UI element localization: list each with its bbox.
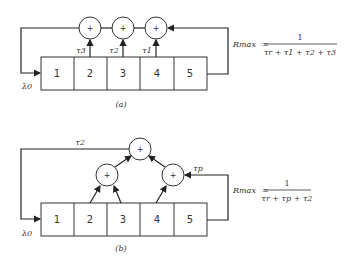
- plus-icon: +: [170, 171, 177, 180]
- tap-label-tau3: τ3: [76, 46, 86, 55]
- plus-icon: +: [104, 171, 111, 180]
- formula-numerator-b: 1: [284, 179, 289, 188]
- cell-3: 3: [120, 214, 126, 225]
- formula-numerator-a: 1: [297, 33, 302, 42]
- plus-icon: +: [87, 24, 94, 33]
- diagram-canvas: 1 2 3 4 5 + + + τ3 τ2 τ1 λ0 (: [0, 0, 349, 260]
- tap-label-tau1: τ1: [142, 46, 152, 55]
- caption-b: (b): [115, 244, 126, 253]
- plus-icon: +: [137, 145, 144, 154]
- cell-1: 1: [54, 68, 60, 79]
- cell-4: 4: [154, 214, 160, 225]
- tap-label-taup: τp: [193, 164, 203, 173]
- formula-denominator-a: τr + τ1 + τ2 + τ3: [264, 48, 336, 57]
- input-label-lambda0: λ0: [21, 82, 32, 91]
- plus-icon: +: [153, 24, 160, 33]
- cell-3: 3: [120, 68, 126, 79]
- cell-2: 2: [87, 68, 93, 79]
- caption-a: (a): [115, 100, 126, 109]
- input-label-lambda0: λ0: [21, 229, 32, 238]
- diagram-b: 1 2 3 4 5 + + + τ2 τp λ0 (b) Rmax = 1 τr…: [21, 138, 312, 253]
- cell-4: 4: [154, 68, 160, 79]
- feedback-label-tau2: τ2: [75, 138, 85, 147]
- cell-5: 5: [187, 68, 193, 79]
- cell-2: 2: [87, 214, 93, 225]
- formula-lhs-b: Rmax: [232, 186, 256, 195]
- cell-5: 5: [187, 214, 193, 225]
- formula-lhs-a: Rmax: [232, 40, 256, 49]
- tap-label-tau2: τ2: [109, 46, 119, 55]
- plus-icon: +: [120, 24, 127, 33]
- cell-1: 1: [54, 214, 60, 225]
- diagram-a: 1 2 3 4 5 + + + τ3 τ2 τ1 λ0 (: [21, 17, 337, 109]
- formula-denominator-b: τr + τp + τ2: [262, 194, 313, 203]
